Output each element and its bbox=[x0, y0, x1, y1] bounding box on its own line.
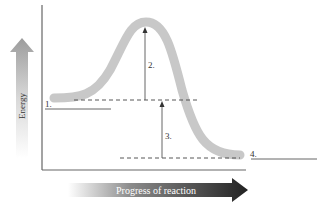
activation-energy-arrow bbox=[143, 27, 148, 100]
label-3: 3. bbox=[165, 131, 172, 141]
energy-diagram: Energy Progress of reaction 2. 3. 1. 4. bbox=[0, 0, 322, 212]
reaction-curve bbox=[54, 22, 240, 155]
label-4: 4. bbox=[250, 149, 257, 159]
progress-axis-arrow: Progress of reaction bbox=[68, 178, 248, 202]
label-2: 2. bbox=[148, 60, 155, 70]
label-1: 1. bbox=[45, 99, 52, 109]
energy-axis-arrow: Energy bbox=[10, 38, 34, 158]
progress-axis-label: Progress of reaction bbox=[116, 185, 196, 196]
energy-change-arrow bbox=[160, 101, 165, 158]
energy-axis-label: Energy bbox=[17, 93, 27, 119]
